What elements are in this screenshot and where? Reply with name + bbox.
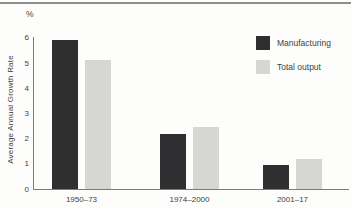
bar-total-output-1974-2000 [193, 127, 219, 189]
bar-manufacturing-2001-17 [263, 165, 289, 189]
chart-figure: % Average Annual Growth Rate 0123456 195… [0, 0, 351, 208]
y-tick-6: 6 [15, 33, 29, 42]
bar-total-output-2001-17 [296, 159, 322, 189]
category-label-1974-2000: 1974–2000 [155, 195, 225, 204]
legend-item-total-output: Total output [256, 60, 331, 74]
legend-swatch-total-output [256, 60, 270, 74]
legend-label-manufacturing: Manufacturing [277, 38, 331, 48]
bar-manufacturing-1974-2000 [160, 134, 186, 189]
legend: Manufacturing Total output [256, 36, 331, 84]
legend-swatch-manufacturing [256, 36, 270, 50]
top-rule-divider [0, 2, 351, 4]
y-axis-title: Average Annual Growth Rate [6, 49, 15, 171]
y-tick-1: 1 [15, 159, 29, 168]
y-tick-2: 2 [15, 134, 29, 143]
bar-total-output-1950-73 [85, 60, 111, 189]
y-tick-3: 3 [15, 109, 29, 118]
legend-item-manufacturing: Manufacturing [256, 36, 331, 50]
x-axis-line [33, 189, 349, 190]
y-axis-line [33, 37, 34, 190]
y-tick-4: 4 [15, 84, 29, 93]
legend-label-total-output: Total output [277, 62, 321, 72]
y-axis-unit-label: % [26, 9, 34, 19]
category-label-1950-73: 1950–73 [47, 195, 117, 204]
bar-manufacturing-1950-73 [52, 40, 78, 189]
category-label-2001-17: 2001–17 [258, 195, 328, 204]
y-tick-0: 0 [15, 185, 29, 194]
y-tick-5: 5 [15, 59, 29, 68]
